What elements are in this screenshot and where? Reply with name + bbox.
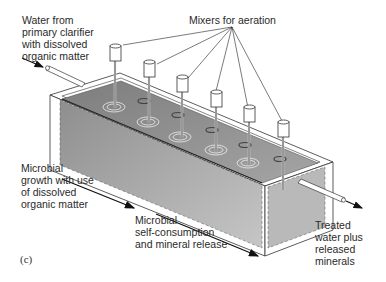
outflow-label: Treated water plus released minerals <box>315 219 363 267</box>
mixers-label: Mixers for aeration <box>189 14 276 26</box>
inflow-label: Water from primary clarifier with dissol… <box>22 14 94 62</box>
inlet-pipe <box>22 58 85 87</box>
self-consumption-label: Microbial self-consumption and mineral r… <box>135 214 227 250</box>
microbial-growth-label: Microbial growth with use of dissolved o… <box>21 162 94 210</box>
panel-letter: (c) <box>20 253 32 265</box>
